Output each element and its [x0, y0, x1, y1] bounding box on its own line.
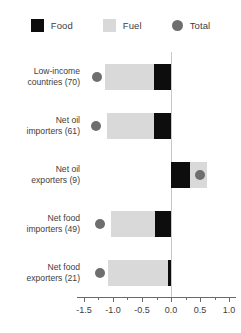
axis-tick-major: [229, 297, 230, 302]
axis-tick-label: -0.5: [134, 305, 150, 315]
legend-item-food: Food: [31, 19, 73, 32]
chart-row: Net oil exporters (9): [0, 150, 241, 199]
chart-row: Net oil importers (61): [0, 101, 241, 150]
plot-area: Low-income countries (70)Net oil importe…: [0, 52, 241, 297]
axis-tick-major: [200, 297, 201, 302]
bar-segment-food: [154, 113, 171, 139]
chart-container: FoodFuelTotal Low-income countries (70)N…: [0, 0, 241, 333]
axis-tick-label: 1.0: [223, 305, 236, 315]
total-marker-dot: [195, 170, 205, 180]
legend-item-total: Total: [172, 20, 211, 31]
bar-segment-food: [168, 260, 171, 286]
axis-tick-major: [84, 297, 85, 302]
total-marker-dot: [95, 268, 105, 278]
axis-tick-label: -1.5: [76, 305, 92, 315]
axis-tick-minor: [127, 297, 128, 300]
chart-row: Low-income countries (70): [0, 52, 241, 101]
legend-label: Fuel: [123, 20, 142, 31]
axis-tick-major: [171, 297, 172, 302]
bar-segment-fuel: [111, 211, 155, 237]
x-axis: -1.5-1.0-0.50.00.51.0: [0, 297, 241, 333]
legend-item-fuel: Fuel: [103, 19, 142, 32]
total-marker-dot: [91, 121, 101, 131]
bar-segment-fuel: [107, 113, 153, 139]
chart-row: Net food exporters (21): [0, 248, 241, 297]
axis-tick-label: 0.5: [194, 305, 207, 315]
total-marker-dot: [92, 72, 102, 82]
axis-tick-minor: [98, 297, 99, 300]
legend-label: Total: [190, 20, 211, 31]
axis-tick-minor: [215, 297, 216, 300]
square-swatch-icon: [103, 19, 116, 32]
axis-tick-label: -1.0: [105, 305, 121, 315]
category-label: Net oil exporters (9): [2, 164, 80, 186]
category-label: Net food importers (49): [2, 213, 80, 235]
category-label: Net food exporters (21): [2, 262, 80, 284]
axis-tick-label: 0.0: [165, 305, 178, 315]
category-label: Net oil importers (61): [2, 115, 80, 137]
square-swatch-icon: [31, 19, 44, 32]
bar-segment-food: [171, 162, 190, 188]
axis-tick-minor: [186, 297, 187, 300]
chart-row: Net food importers (49): [0, 199, 241, 248]
axis-tick-major: [113, 297, 114, 302]
chart-legend: FoodFuelTotal: [0, 14, 241, 36]
bar-segment-fuel: [105, 64, 154, 90]
bar-segment-food: [154, 64, 171, 90]
bar-segment-fuel: [108, 260, 168, 286]
axis-tick-minor: [157, 297, 158, 300]
legend-label: Food: [51, 20, 73, 31]
bar-segment-food: [155, 211, 171, 237]
total-marker-dot: [95, 219, 105, 229]
axis-tick-major: [142, 297, 143, 302]
circle-marker-icon: [172, 20, 183, 31]
category-label: Low-income countries (70): [2, 66, 80, 88]
